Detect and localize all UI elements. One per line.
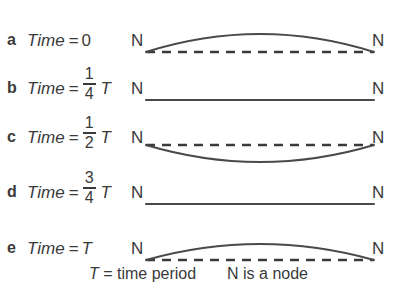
row-letter-d: d [7, 184, 17, 200]
wave-row-b: b Time = 1 4 T N N [0, 48, 397, 96]
period-symbol-b: T [97, 80, 111, 97]
time-label-c: Time [27, 129, 69, 146]
time-label-e: Time [27, 240, 69, 257]
node-label-left-e: N [131, 240, 143, 257]
wave-row-d: d Time = 3 4 T N N [0, 152, 397, 200]
fraction-denominator-c: 2 [85, 134, 94, 151]
equals-sign-c: = [69, 129, 82, 146]
wave-crest-curve-e [146, 244, 374, 260]
period-symbol-d: T [97, 184, 111, 201]
equals-sign-e: = [69, 240, 82, 257]
fraction-d: 3 4 [83, 170, 96, 206]
period-symbol-c: T [97, 129, 111, 146]
time-value-e: T [82, 240, 92, 257]
node-label-left-c: N [131, 129, 143, 146]
row-letter-e: e [7, 240, 16, 256]
fraction-numerator-c: 1 [85, 115, 94, 132]
equals-sign-a: = [69, 32, 82, 49]
standing-wave-diagram: { "diagram": { "title": "Standing wave o… [0, 0, 397, 298]
fraction-numerator-d: 3 [85, 170, 94, 187]
row-expression-d: Time = 3 4 T [27, 165, 111, 201]
row-expression-b: Time = 1 4 T [27, 61, 111, 97]
node-label-left-a: N [131, 32, 143, 49]
wave-row-a: a Time = 0 N N [0, 0, 397, 48]
row-letter-b: b [7, 80, 17, 96]
row-expression-c: Time = 1 2 T [27, 110, 111, 146]
row-expression-a: Time = 0 [27, 32, 91, 49]
fraction-numerator-b: 1 [85, 66, 94, 83]
row-letter-c: c [7, 129, 16, 145]
node-label-left-b: N [131, 80, 143, 97]
wave-graphic-d [146, 166, 374, 214]
wave-row-e: e Time = T N N [0, 208, 397, 256]
fraction-c: 1 2 [83, 115, 96, 151]
time-label-d: Time [27, 184, 69, 201]
row-letter-a: a [7, 32, 16, 48]
fraction-denominator-d: 4 [85, 189, 94, 206]
time-label-b: Time [27, 80, 69, 97]
wave-row-c: c Time = 1 2 T N N [0, 97, 397, 145]
caption-period-definition: = time period [103, 265, 196, 282]
caption-node-definition: N is a node [227, 265, 308, 282]
caption-period-symbol: T [89, 265, 99, 282]
equals-sign-d: = [69, 184, 82, 201]
time-value-a: 0 [82, 32, 91, 49]
node-label-left-d: N [131, 184, 143, 201]
time-label-a: Time [27, 32, 69, 49]
wave-graphic-e [146, 222, 374, 270]
equals-sign-b: = [69, 80, 82, 97]
diagram-caption: T = time period N is a node [0, 266, 397, 282]
row-expression-e: Time = T [27, 240, 92, 257]
